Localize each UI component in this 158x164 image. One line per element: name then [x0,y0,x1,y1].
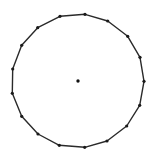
vertex-point [11,67,14,70]
vertex-point [83,146,86,149]
vertex-point [58,15,61,18]
polygon-diagram [0,0,158,164]
vertex-point [126,35,129,38]
vertex-point [20,44,23,47]
vertex-point [106,19,109,22]
vertex-point [138,104,141,107]
vertex-point [36,132,39,135]
vertex-point [83,13,86,16]
vertex-point [36,26,39,29]
vertex-point [125,124,128,127]
vertex-point [11,92,14,95]
vertex-point [105,139,108,142]
center-point [76,79,79,82]
vertex-point [58,144,61,147]
vertex-point [20,115,23,118]
vertex-point [138,56,141,59]
vertex-point [142,80,145,83]
